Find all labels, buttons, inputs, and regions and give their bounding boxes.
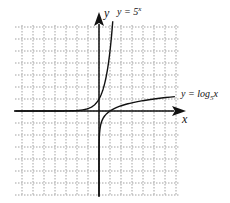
exp-curve-label: y = 5x — [117, 5, 141, 17]
log-curve-label: y = log5x — [181, 88, 218, 102]
x-axis-label: x — [182, 112, 187, 127]
exp-label-base: y = 5 — [117, 6, 138, 17]
log-label-arg: x — [213, 88, 217, 99]
y-axis-label: y — [104, 6, 109, 21]
exp-curve — [15, 21, 112, 111]
exp-label-power: x — [138, 5, 141, 13]
log-label-prefix: y = log — [181, 88, 210, 99]
y-axis-arrow-icon — [94, 12, 104, 26]
